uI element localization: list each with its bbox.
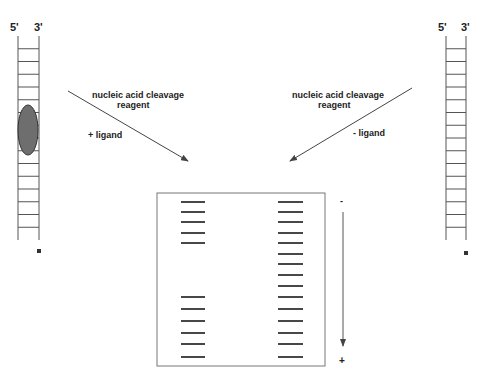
right-3prime-label: 3'	[461, 21, 470, 33]
right-dna-ladder	[446, 36, 466, 240]
anode-label: +	[339, 355, 345, 366]
right-5prime-label: 5'	[438, 21, 447, 33]
footprinting-diagram: 5' 3' 5' 3' nucleic acid cleavage reagen…	[0, 0, 487, 380]
left-reagent-label-line2: reagent	[117, 100, 150, 110]
gel-box	[157, 193, 325, 366]
right-reagent-label-line1: nucleic acid cleavage	[292, 90, 384, 100]
left-5prime-label: 5'	[10, 21, 19, 33]
left-reagent-label-line1: nucleic acid cleavage	[92, 90, 184, 100]
right-reagent-label-line2: reagent	[318, 100, 351, 110]
ligand-ellipse	[18, 105, 38, 155]
minus-ligand-label: - ligand	[353, 128, 385, 138]
left-end-label-marker	[37, 249, 41, 253]
cathode-label: -	[340, 196, 343, 206]
left-3prime-label: 3'	[34, 21, 43, 33]
gel-lane-plus-ligand	[181, 202, 205, 357]
right-end-label-marker	[464, 251, 468, 255]
gel-lane-minus-ligand	[278, 202, 303, 357]
plus-ligand-label: + ligand	[88, 130, 122, 140]
